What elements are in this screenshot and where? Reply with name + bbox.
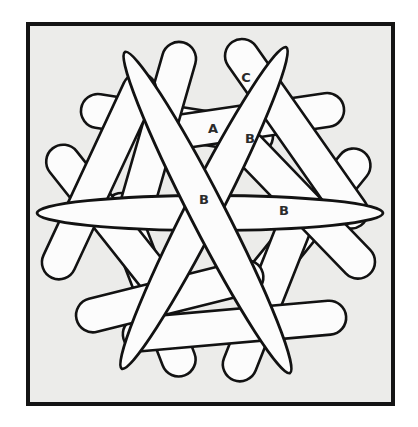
stick-label-B: B — [245, 131, 255, 146]
figure-canvas: ABBBC — [0, 0, 418, 427]
stick-label-B: B — [199, 192, 209, 207]
stick-label-B: B — [279, 203, 289, 218]
stick-label-C: C — [241, 70, 251, 85]
stick-label-A: A — [208, 121, 218, 136]
puzzle-figure: ABBBC — [0, 0, 418, 427]
